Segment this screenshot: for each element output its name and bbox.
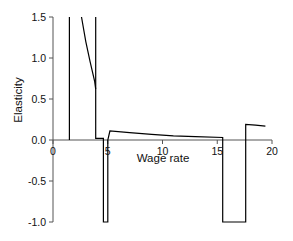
x-tick-label: 5 — [105, 145, 111, 157]
series-lines — [69, 17, 265, 222]
y-tick-label: -0.5 — [28, 175, 46, 187]
y-tick-label: 0.5 — [31, 93, 46, 105]
series-line — [82, 17, 96, 89]
y-tick-label: 1.5 — [31, 11, 46, 23]
y-tick-label: 0.0 — [31, 134, 46, 146]
y-tick-label: 1.0 — [31, 52, 46, 64]
y-tick-label: -1.0 — [28, 216, 46, 228]
x-tick-label: 20 — [266, 145, 278, 157]
x-tick-label: 15 — [211, 145, 223, 157]
x-tick-label: 0 — [50, 145, 56, 157]
y-axis-label: Elasticity — [12, 77, 24, 123]
elasticity-chart: -1.0-0.50.00.51.01.505101520 Wage rate E… — [0, 0, 293, 241]
axes — [49, 17, 272, 222]
x-axis-label: Wage rate — [137, 152, 190, 164]
series-line — [96, 17, 266, 222]
tick-labels: -1.0-0.50.00.51.01.505101520 — [28, 11, 278, 228]
